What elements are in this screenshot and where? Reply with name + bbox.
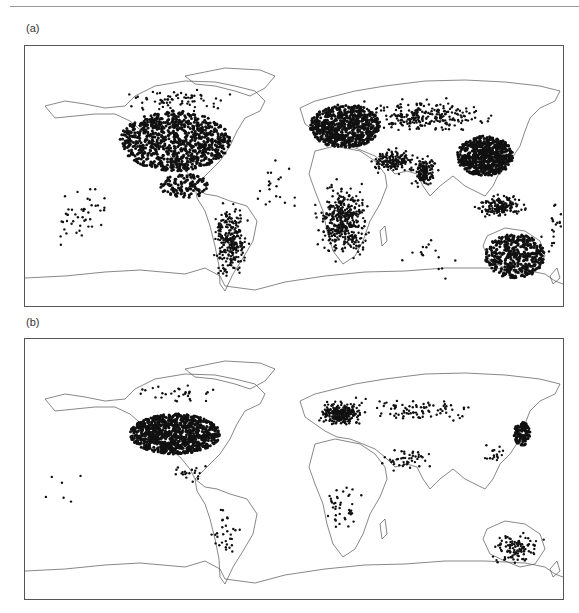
continent-coastline [195,479,257,584]
station-cluster-central-america [159,173,208,199]
station-cluster-europe [309,103,381,148]
world-map-panel-a [24,45,564,307]
station-cluster-atlantic [257,159,296,207]
page-header-rule [10,6,579,7]
station-cluster-middle-east [370,147,421,175]
station-cluster-south-america [210,509,240,553]
continent-coastline [550,268,560,284]
station-cluster-australia [492,532,545,564]
station-cluster-central-america [175,465,207,483]
continent-coastline [185,68,275,96]
station-cluster-africa [314,178,370,263]
station-cluster-usa [129,413,221,456]
continent-coastline [380,519,387,539]
station-cluster-canada [140,384,215,402]
station-cluster-africa [327,487,363,528]
station-cluster-se-asia [474,194,527,218]
station-cluster-china [456,135,514,177]
station-cluster-pacific-east [540,204,562,253]
station-cluster-canada [128,89,231,113]
station-cluster-india [411,155,440,188]
panel-a-label: (a) [26,22,39,34]
continent-coastline [309,439,387,557]
map-b-svg [25,339,563,599]
antarctica-coastline [25,268,563,290]
map-a-svg [25,46,563,306]
station-cluster-europe [318,401,361,426]
station-cluster-south-america [213,202,250,277]
panel-b-label: (b) [26,316,39,328]
antarctica-coastline [25,561,563,583]
continent-coastline [185,361,275,389]
station-cluster-pacific [45,475,82,503]
world-map-panel-b [24,338,564,600]
station-cluster-north-america [119,110,232,173]
station-cluster-pacific [59,188,105,246]
continent-coastline [550,561,560,577]
continent-coastline [380,226,387,246]
station-cluster-russia [344,397,469,422]
station-cluster-indian-ocean [401,239,456,280]
station-cluster-china-coast [484,444,504,461]
